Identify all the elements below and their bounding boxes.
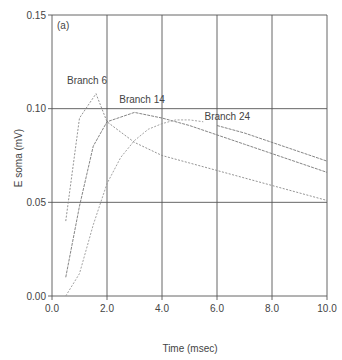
x-tick-label: 10.0 [317, 303, 337, 314]
x-tick-label: 2.0 [100, 303, 114, 314]
x-axis-label: Time (msec) [162, 343, 217, 354]
x-tick-label: 6.0 [210, 303, 224, 314]
chart: 0.02.04.06.08.010.00.000.050.100.15 Bran… [0, 0, 342, 360]
series-line-branch-24 [66, 120, 204, 296]
grid-lines [52, 15, 327, 296]
y-tick-label: 0.10 [27, 103, 47, 114]
series-label: Branch 14 [119, 94, 165, 105]
x-tick-label: 4.0 [155, 303, 169, 314]
x-tick-label: 8.0 [265, 303, 279, 314]
data-series [66, 94, 327, 296]
series-label: Branch 6 [67, 75, 107, 86]
y-tick-label: 0.15 [27, 10, 47, 21]
y-tick-label: 0.00 [27, 291, 47, 302]
x-tick-label: 0.0 [45, 303, 59, 314]
panel-label: (a) [57, 20, 69, 31]
axes: 0.02.04.06.08.010.00.000.050.100.15 [27, 10, 338, 315]
y-axis-label: E soma (mV) [13, 129, 24, 187]
series-labels: Branch 6Branch 14Branch 24 [67, 75, 251, 122]
y-tick-label: 0.05 [27, 197, 47, 208]
series-label: Branch 24 [205, 111, 251, 122]
series-line-branch-14 [66, 112, 327, 277]
